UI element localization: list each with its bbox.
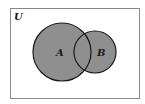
set-a-label: A [55, 47, 64, 58]
set-b-label: B [96, 47, 105, 58]
universe-label: U [14, 11, 24, 22]
venn-diagram: U A B [0, 0, 145, 104]
